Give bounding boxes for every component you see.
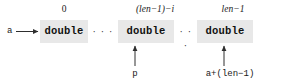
index-label-first: 0: [40, 4, 88, 15]
ellipsis-left: · · ·: [90, 25, 116, 39]
ellipsis-right: · · ·: [176, 25, 196, 39]
array-cell-first-type: double: [44, 26, 83, 37]
array-cell-last: double: [197, 20, 253, 43]
index-label-last: len−1: [197, 4, 269, 15]
array-cell-last-type: double: [205, 26, 244, 37]
pointer-label-end: a+(len−1): [187, 68, 273, 80]
array-cell-middle: double: [118, 20, 174, 43]
array-memory-diagram: 0 (len−1)−i len−1 double double double ·…: [0, 0, 283, 84]
pointer-label-middle: p: [124, 68, 146, 80]
index-label-middle: (len−1)−i: [118, 4, 192, 15]
pointer-label-base: a: [7, 25, 12, 37]
array-cell-middle-type: double: [126, 26, 165, 37]
array-cell-first: double: [40, 20, 88, 43]
